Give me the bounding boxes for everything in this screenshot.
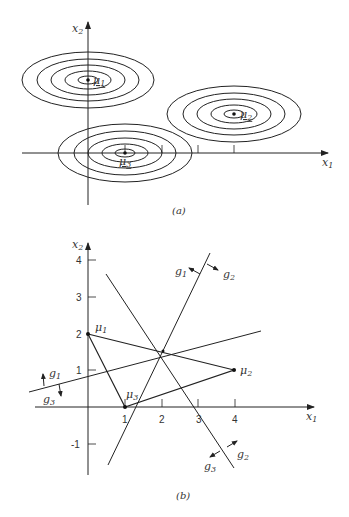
region-arrow-g3-bottom	[210, 451, 220, 457]
figure: x2 x1 μ1 μ2 μ3 (a) 1 2 3 4 4 3 2 1 -1	[0, 0, 349, 517]
region-arrow-g2-bottom	[227, 441, 237, 447]
x-tick-label-4: 4	[232, 414, 238, 425]
g2-top-label: g2	[223, 268, 235, 282]
x-tick-label-2: 2	[159, 414, 165, 425]
g1-left-label: g1	[49, 367, 61, 381]
panel-b-caption: (b)	[176, 490, 190, 501]
mu1-label: μ1	[93, 74, 105, 88]
g3-left-label: g3	[43, 393, 55, 407]
panel-a-caption: (a)	[172, 205, 186, 216]
y-tick-label-neg1: -1	[71, 439, 80, 450]
y-axis-label: x2	[72, 238, 83, 252]
mu2-label: μ2	[240, 364, 252, 378]
boundary-g1-g2	[108, 253, 210, 465]
mean-point-mu3	[123, 405, 127, 409]
panel-a: x2 x1 μ1 μ2 μ3 (a)	[22, 22, 333, 216]
y-tick-label-1: 1	[76, 365, 82, 376]
mean-point-mu2	[232, 112, 236, 116]
y-tick-label-4: 4	[76, 255, 82, 266]
g1-top-label: g1	[175, 265, 187, 279]
boundary-g2-g3	[106, 274, 234, 468]
panel-b: 1 2 3 4 4 3 2 1 -1 μ1 μ2 μ3 g1 g	[29, 238, 317, 501]
x-axis-label: x1	[306, 410, 317, 424]
g2-bottom-label: g2	[237, 448, 249, 462]
g3-bottom-label: g3	[204, 460, 216, 474]
x-tick-label-1: 1	[122, 414, 128, 425]
mean-point-mu2	[232, 368, 236, 372]
y-tick-label-3: 3	[76, 292, 82, 303]
boundary-g1-g3	[29, 331, 261, 392]
mu1-label: μ1	[95, 321, 107, 335]
region-arrow-g2-top	[207, 264, 218, 270]
region-arrow-g3-left	[59, 384, 61, 396]
y-tick-label-2: 2	[76, 329, 82, 340]
region-arrow-g1-left	[43, 374, 44, 386]
mu2-label: μ2	[240, 108, 252, 122]
mean-point-mu1	[86, 78, 90, 82]
region-arrow-g1-top	[189, 268, 200, 274]
y-axis-label: x2	[72, 22, 83, 36]
mean-point-mu1	[86, 332, 90, 336]
intersection-point	[162, 350, 165, 353]
mu3-label: μ3	[126, 388, 138, 402]
x-axis-label: x1	[322, 156, 333, 170]
